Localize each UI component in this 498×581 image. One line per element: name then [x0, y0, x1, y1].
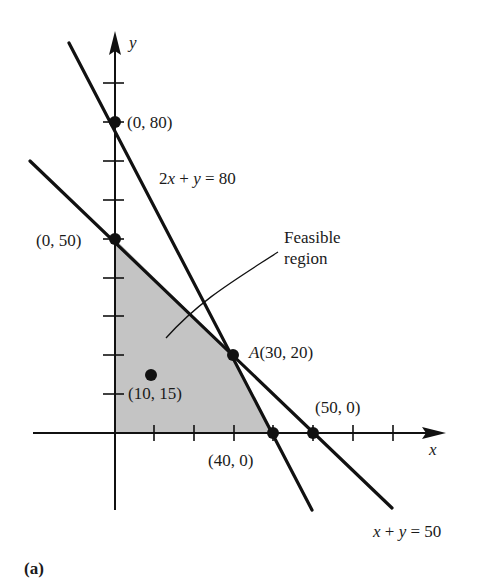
- point-A-30-20: [227, 349, 239, 361]
- feasible-region-label-line2: region: [284, 249, 328, 268]
- label-point-A-coords: (30, 20): [259, 343, 313, 362]
- label-point-50-0: (50, 0): [315, 398, 360, 417]
- label-line-2x-plus-y-80: 2x + y = 80: [159, 169, 236, 188]
- label-point-0-80: (0, 80): [127, 113, 172, 132]
- x-axis-label: x: [428, 440, 437, 459]
- point-40-0: [267, 427, 279, 439]
- point-0-80: [109, 116, 121, 128]
- label-line-x-plus-y-50: x + y = 50: [372, 522, 441, 541]
- feasible-region-label-line1: Feasible: [284, 228, 341, 247]
- feasible-region-shading: [115, 239, 273, 433]
- label-point-0-50: (0, 50): [36, 231, 81, 250]
- point-0-50: [109, 233, 121, 245]
- label-point-10-15: (10, 15): [128, 384, 182, 403]
- point-50-0: [307, 427, 319, 439]
- figure-label: (a): [24, 559, 44, 578]
- label-point-40-0: (40, 0): [208, 451, 253, 470]
- label-point-A: A(30, 20): [248, 343, 313, 362]
- label-point-A-prefix: A: [248, 343, 260, 362]
- feasible-region-diagram: y x (0, 80) (0, 50) A(30, 20) (10, 15) (…: [0, 0, 498, 581]
- point-10-15: [145, 369, 157, 381]
- line-2x-plus-y-80: [69, 43, 312, 510]
- y-axis-label: y: [127, 33, 137, 52]
